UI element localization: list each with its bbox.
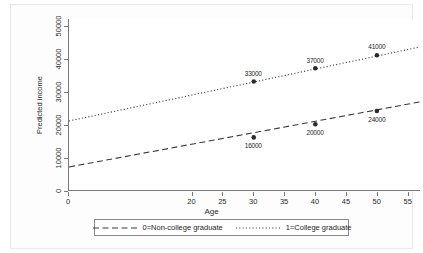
x-tick-mark: [408, 192, 409, 196]
graph-region: Predicted income 16000200002400033000370…: [10, 4, 413, 249]
x-tick-label: 20: [187, 197, 195, 206]
data-point-label: 33000: [245, 70, 262, 77]
data-point-label: 37000: [306, 57, 323, 64]
y-tick-mark: [64, 158, 68, 159]
x-tick-label: 30: [249, 197, 257, 206]
y-tick-mark: [64, 59, 68, 60]
x-tick-mark: [284, 192, 285, 196]
data-point-marker: [375, 109, 380, 114]
y-tick-mark: [64, 191, 68, 192]
y-tick-label: 30000: [54, 75, 64, 109]
data-point-label: 16000: [245, 142, 262, 149]
x-tick-label: 25: [218, 197, 226, 206]
y-tick-label: 0: [54, 174, 64, 208]
data-point-marker: [313, 122, 318, 127]
legend: 0=Non-college graduate 1=College graduat…: [94, 219, 349, 236]
x-tick-mark: [315, 192, 316, 196]
legend-label-noncollege: 0=Non-college graduate: [143, 223, 223, 232]
legend-label-college: 1=College graduate: [286, 223, 352, 232]
x-tick-label: 50: [373, 197, 381, 206]
y-tick-mark: [64, 26, 68, 27]
x-axis-title: Age: [11, 207, 412, 216]
x-tick-mark: [68, 192, 69, 196]
y-tick-label: 10000: [54, 141, 64, 175]
data-point-marker: [375, 53, 380, 58]
y-tick-mark: [64, 125, 68, 126]
y-axis-title: Predicted income: [35, 19, 44, 191]
legend-key-dashed-icon: [92, 224, 138, 232]
data-point-marker: [251, 135, 256, 140]
series-line-0: [69, 102, 420, 167]
y-tick-label: 50000: [54, 9, 64, 43]
x-tick-label: 35: [280, 197, 288, 206]
x-tick-label: 40: [311, 197, 319, 206]
y-tick-mark: [64, 92, 68, 93]
y-tick-label: 40000: [54, 42, 64, 76]
data-point-label: 24000: [368, 116, 385, 123]
x-tick-mark: [192, 192, 193, 196]
data-point-marker: [313, 66, 318, 71]
x-tick-mark: [253, 192, 254, 196]
x-tick-mark: [222, 192, 223, 196]
series-line-1: [69, 47, 420, 121]
x-tick-label: 0: [66, 197, 70, 206]
x-tick-mark: [346, 192, 347, 196]
legend-key-dotted-icon: [235, 224, 281, 232]
plot-area: [68, 19, 420, 191]
legend-entry-college[interactable]: 1=College graduate: [235, 223, 352, 232]
data-point-label: 41000: [368, 43, 385, 50]
x-tick-mark: [377, 192, 378, 196]
x-tick-label: 45: [342, 197, 350, 206]
x-tick-label: 55: [403, 197, 411, 206]
chart-screenshot: Predicted income 16000200002400033000370…: [0, 0, 423, 253]
y-tick-label: 20000: [54, 108, 64, 142]
data-point-marker: [251, 79, 256, 84]
data-point-label: 20000: [306, 129, 323, 136]
legend-entry-noncollege[interactable]: 0=Non-college graduate: [92, 223, 223, 232]
